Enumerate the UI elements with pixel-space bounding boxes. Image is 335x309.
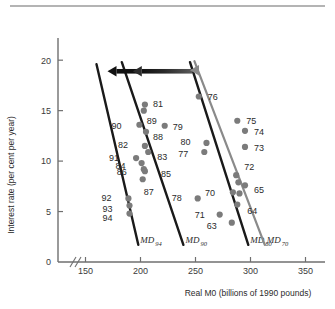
y-tick-label: 5: [46, 207, 51, 217]
x-axis-title: Real M0 (billions of 1990 pounds): [185, 288, 312, 298]
md-curve-label-94: MD94: [139, 235, 162, 247]
point-marker: [145, 149, 151, 155]
point-marker: [126, 202, 132, 208]
point-label: 72: [244, 162, 254, 172]
point-marker: [142, 101, 148, 107]
point-marker: [195, 195, 201, 201]
point-label: 92: [101, 193, 111, 203]
point-marker: [242, 182, 248, 188]
md-label-text: MD: [266, 235, 281, 245]
point-marker: [136, 122, 142, 128]
data-point-70b: [236, 190, 242, 196]
point-label: 94: [102, 213, 112, 223]
data-point-82: 82: [118, 140, 148, 150]
point-label: 80: [180, 137, 190, 147]
point-marker: [196, 93, 202, 99]
point-marker: [201, 149, 207, 155]
arrow-head: [108, 66, 117, 76]
point-marker: [229, 220, 235, 226]
point-label: 74: [254, 127, 264, 137]
x-tick-label: 350: [298, 266, 313, 276]
point-marker: [233, 172, 239, 178]
point-label: 89: [147, 116, 157, 126]
data-point-81: 81: [142, 99, 163, 109]
point-label: 85: [161, 169, 171, 179]
arrow-shaft: [142, 69, 192, 74]
data-point-85: 85: [142, 168, 171, 179]
point-label: 83: [157, 152, 167, 162]
md-label-subscript: 90: [200, 240, 207, 247]
data-point-71: 71: [195, 210, 223, 220]
md-label-text: MD: [184, 235, 199, 245]
point-label: 81: [153, 99, 163, 109]
data-point-75: 75: [234, 116, 256, 126]
point-label: 88: [153, 132, 163, 142]
point-label: 87: [144, 187, 154, 197]
point-marker: [162, 123, 168, 129]
point-marker: [140, 176, 146, 182]
point-marker: [242, 144, 248, 150]
point-marker: [139, 160, 145, 166]
point-label: 76: [208, 92, 218, 102]
md-curve-label-90: MD90: [184, 235, 207, 247]
x-tick-label: 250: [188, 266, 203, 276]
x-tick-label: 150: [78, 266, 93, 276]
data-point-94: 94: [102, 210, 132, 222]
point-label: 63: [207, 221, 217, 231]
point-marker: [236, 190, 242, 196]
point-label: 78: [172, 193, 182, 203]
md-curves: MD94MD90MD80MD70: [97, 61, 290, 247]
data-point-78: 78: [172, 193, 201, 203]
arrow-head: [133, 66, 142, 76]
point-label: 79: [173, 122, 183, 132]
data-point-90: 90: [111, 121, 142, 131]
point-marker: [142, 143, 148, 149]
y-axis-title: Interest rate (per cent per year): [6, 116, 16, 234]
data-point-74: 74: [242, 127, 264, 137]
data-point-63: 63: [207, 220, 235, 231]
point-label: 90: [111, 121, 121, 131]
point-marker: [125, 195, 131, 201]
md-label-text: MD: [139, 235, 154, 245]
figure-container: 05101520150200250300350 MD94MD90MD80MD70…: [0, 0, 335, 309]
point-marker: [142, 168, 148, 174]
y-tick-label: 0: [46, 257, 51, 267]
scatter-chart: 05101520150200250300350 MD94MD90MD80MD70…: [0, 0, 335, 309]
point-marker: [234, 118, 240, 124]
data-point-79: 79: [162, 122, 183, 132]
point-label: 70: [205, 188, 215, 198]
point-marker: [143, 129, 149, 135]
point-label: 64: [247, 206, 257, 216]
data-point-72b: [235, 179, 241, 185]
shift-arrows: [108, 65, 200, 76]
point-marker: [203, 140, 209, 146]
point-label: 82: [118, 140, 128, 150]
point-label: 86: [117, 167, 127, 177]
point-label: 65: [254, 185, 264, 195]
y-tick-label: 15: [41, 106, 51, 116]
point-marker: [126, 210, 132, 216]
point-label: 77: [178, 149, 188, 159]
data-point-77: 77: [178, 149, 207, 159]
point-marker: [217, 211, 223, 217]
point-marker: [242, 128, 248, 134]
point-marker: [234, 201, 240, 207]
point-marker: [141, 108, 147, 114]
data-points: 8189907988828391848685879293947675747380…: [101, 92, 264, 231]
point-marker: [235, 179, 241, 185]
y-tick-label: 20: [41, 56, 51, 66]
x-tick-label: 300: [243, 266, 258, 276]
point-marker: [133, 155, 139, 161]
x-tick-label: 200: [133, 266, 148, 276]
point-label: 75: [246, 116, 256, 126]
point-marker: [230, 189, 236, 195]
md-label-subscript: 94: [155, 240, 162, 247]
data-point-80: 80: [180, 137, 209, 147]
point-label: 71: [195, 210, 205, 220]
data-point-73: 73: [242, 143, 264, 153]
point-label: 73: [254, 143, 264, 153]
data-point-83: 83: [145, 149, 167, 162]
long-gradient-arrow: [133, 66, 192, 76]
y-tick-label: 10: [41, 156, 51, 166]
data-point-87: 87: [140, 176, 154, 197]
